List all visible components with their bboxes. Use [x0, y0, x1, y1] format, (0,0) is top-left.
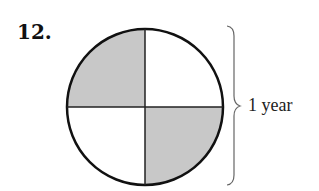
curly-brace	[227, 26, 240, 185]
brace-label: 1 year	[248, 95, 292, 116]
